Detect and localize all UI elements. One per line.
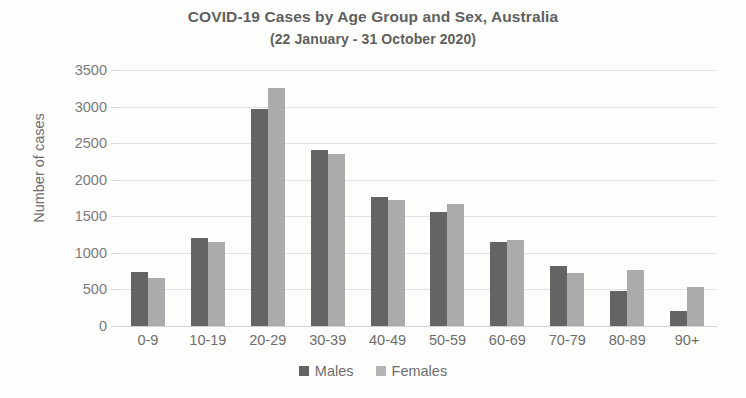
bar-group [118,70,178,326]
legend-item-males[interactable]: Males [299,363,354,379]
chart-legend: MalesFemales [0,363,746,379]
x-axis-label-50-59: 50-59 [418,332,478,348]
chart-subtitle: (22 January - 31 October 2020) [0,29,746,49]
x-axis-label-30-39: 30-39 [298,332,358,348]
y-axis-tick-label: 3000 [75,99,107,115]
x-axis-label-70-79: 70-79 [537,332,597,348]
y-axis-tick [111,180,118,181]
bar-females-90+[interactable] [687,287,704,326]
bar-chart: COVID-19 Cases by Age Group and Sex, Aus… [0,0,746,398]
bar-females-40-49[interactable] [388,200,405,326]
bar-females-0-9[interactable] [148,278,165,326]
y-axis-tick [111,107,118,108]
bar-females-20-29[interactable] [268,88,285,326]
x-axis-label-60-69: 60-69 [477,332,537,348]
bar-group [358,70,418,326]
legend-swatch-icon [299,366,309,376]
bar-females-60-69[interactable] [507,240,524,326]
bar-group [238,70,298,326]
y-axis-tick [111,70,118,71]
x-axis-label-80-89: 80-89 [597,332,657,348]
y-axis-tick [111,326,118,327]
y-axis-title: Number of cases [31,68,47,268]
bar-females-10-19[interactable] [208,242,225,326]
x-axis-label-40-49: 40-49 [358,332,418,348]
bar-females-50-59[interactable] [447,204,464,326]
x-axis-label-20-29: 20-29 [238,332,298,348]
bar-group [477,70,537,326]
y-axis-tick [111,253,118,254]
y-axis-tick-label: 1000 [75,245,107,261]
x-axis-labels: 0-910-1920-2930-3940-4950-5960-6970-7980… [118,332,717,348]
y-axis-tick-label: 0 [99,318,107,334]
y-axis-tick-label: 3500 [75,62,107,78]
legend-label: Males [315,363,354,379]
bar-males-70-79[interactable] [550,266,567,326]
chart-title: COVID-19 Cases by Age Group and Sex, Aus… [0,6,746,27]
bar-groups [118,70,717,326]
legend-label: Females [392,363,448,379]
y-axis-tick [111,216,118,217]
bar-group [298,70,358,326]
x-axis-label-10-19: 10-19 [178,332,238,348]
gridline [118,326,717,327]
legend-swatch-icon [376,366,386,376]
bar-males-40-49[interactable] [371,197,388,326]
bar-group [178,70,238,326]
x-axis-label-90+: 90+ [657,332,717,348]
y-axis-tick-label: 500 [83,281,107,297]
bar-males-80-89[interactable] [610,291,627,326]
bar-group [597,70,657,326]
bar-females-80-89[interactable] [627,270,644,326]
bar-males-30-39[interactable] [311,150,328,326]
y-axis-tick-label: 2000 [75,172,107,188]
bar-males-10-19[interactable] [191,238,208,326]
y-axis-tick-label: 2500 [75,135,107,151]
y-axis-tick [111,143,118,144]
bar-males-20-29[interactable] [251,109,268,326]
plot-area: 3500300025002000150010005000 [118,70,717,326]
bar-males-0-9[interactable] [131,272,148,326]
legend-item-females[interactable]: Females [376,363,448,379]
bar-group [537,70,597,326]
bar-females-30-39[interactable] [328,154,345,326]
bar-group [418,70,478,326]
bar-males-60-69[interactable] [490,242,507,326]
y-axis-tick [111,289,118,290]
bar-females-70-79[interactable] [567,273,584,326]
bar-males-90+[interactable] [670,311,687,326]
bar-males-50-59[interactable] [430,212,447,326]
y-axis-tick-label: 1500 [75,208,107,224]
x-axis-label-0-9: 0-9 [118,332,178,348]
bar-group [657,70,717,326]
